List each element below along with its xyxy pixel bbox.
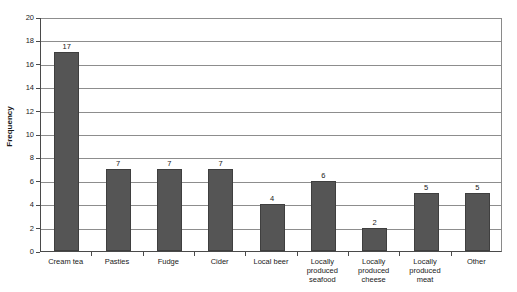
y-axis-ticks: 02468101214161820 xyxy=(0,0,40,292)
bar-value-label: 2 xyxy=(373,218,377,227)
x-axis-tick-mark xyxy=(245,252,246,256)
bar-value-label: 5 xyxy=(424,183,428,192)
x-axis-labels: Cream teaPastiesFudgeCiderLocal beerLoca… xyxy=(40,257,502,292)
y-axis-tick-label: 20 xyxy=(26,13,34,22)
y-axis-tick-label: 0 xyxy=(30,247,34,256)
bar[interactable]: 7 xyxy=(157,169,182,251)
y-axis-tick-label: 16 xyxy=(26,60,34,69)
bar[interactable]: 5 xyxy=(465,193,490,252)
x-axis-category-label: Locally produced seafood xyxy=(299,257,346,284)
bar[interactable]: 6 xyxy=(311,181,336,251)
x-axis-category-label: Locally produced meat xyxy=(401,257,448,284)
x-axis-tick-mark xyxy=(297,252,298,256)
x-axis-category-label: Pasties xyxy=(93,257,140,266)
x-axis-category-label: Other xyxy=(453,257,500,266)
x-axis-tick-mark xyxy=(91,252,92,256)
y-axis-tick-label: 4 xyxy=(30,200,34,209)
y-axis-tick-label: 14 xyxy=(26,83,34,92)
x-axis-category-label: Fudge xyxy=(145,257,192,266)
x-axis-category-label: Cream tea xyxy=(42,257,89,266)
x-axis-category-label: Cider xyxy=(196,257,243,266)
bar[interactable]: 4 xyxy=(260,204,285,251)
bar-value-label: 5 xyxy=(475,183,479,192)
bar-value-label: 7 xyxy=(167,159,171,168)
bar[interactable]: 7 xyxy=(106,169,131,251)
bar-value-label: 4 xyxy=(270,194,274,203)
bar-value-label: 7 xyxy=(219,159,223,168)
x-axis-tick-mark xyxy=(451,252,452,256)
bar[interactable]: 17 xyxy=(54,52,79,251)
x-axis-category-label: Locally produced cheese xyxy=(350,257,397,284)
plot-area: 1777746255 xyxy=(40,18,502,252)
bars-layer: 1777746255 xyxy=(41,18,501,251)
frequency-bar-chart: Frequency 02468101214161820 1777746255 C… xyxy=(0,0,517,292)
y-axis-tick-label: 18 xyxy=(26,36,34,45)
x-axis-tick-mark xyxy=(399,252,400,256)
x-axis-tick-mark xyxy=(348,252,349,256)
x-axis-tick-mark xyxy=(143,252,144,256)
y-axis-tick-label: 2 xyxy=(30,224,34,233)
bar[interactable]: 5 xyxy=(414,193,439,252)
bar[interactable]: 7 xyxy=(208,169,233,251)
bar-value-label: 7 xyxy=(116,159,120,168)
y-axis-tick-label: 10 xyxy=(26,130,34,139)
bar-value-label: 17 xyxy=(62,42,70,51)
bar-value-label: 6 xyxy=(321,171,325,180)
y-axis-tick-label: 12 xyxy=(26,107,34,116)
y-axis-tick-label: 6 xyxy=(30,177,34,186)
x-axis-tick-mark xyxy=(194,252,195,256)
x-axis-category-label: Local beer xyxy=(247,257,294,266)
bar[interactable]: 2 xyxy=(362,228,387,251)
y-axis-tick-label: 8 xyxy=(30,153,34,162)
